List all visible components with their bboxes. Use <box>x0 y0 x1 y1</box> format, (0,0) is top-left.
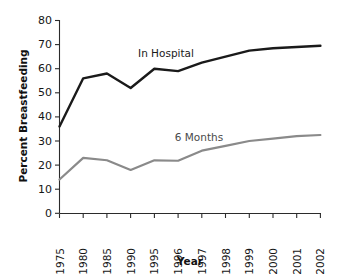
x-axis-ticks <box>60 214 321 219</box>
x-tick-label-4: 1995 <box>148 248 160 275</box>
series-annotation-in-hospital: In Hospital <box>138 47 194 59</box>
x-tick-label-3: 1990 <box>125 248 137 275</box>
x-tick-label-0: 1975 <box>54 248 66 275</box>
x-tick-label-2: 1985 <box>101 248 113 275</box>
y-tick-label-0: 0 <box>45 207 52 220</box>
y-tick-label-60: 60 <box>38 62 52 75</box>
x-tick-label-7: 1998 <box>220 248 232 275</box>
x-tick-label-11: 2002 <box>314 248 326 275</box>
y-tick-label-40: 40 <box>38 110 52 123</box>
breastfeeding-line-chart: 80 70 60 50 40 30 20 10 0 Percent Breast… <box>0 0 348 278</box>
chart-canvas: 80 70 60 50 40 30 20 10 0 Percent Breast… <box>0 0 348 278</box>
x-tick-label-10: 2001 <box>291 248 303 275</box>
y-tick-label-70: 70 <box>38 38 52 51</box>
y-tick-label-80: 80 <box>38 14 52 27</box>
y-tick-label-10: 10 <box>38 183 52 196</box>
x-tick-label-8: 1999 <box>243 248 255 275</box>
x-tick-label-1: 1980 <box>77 248 89 275</box>
y-axis-tick-labels: 80 70 60 50 40 30 20 10 0 <box>38 14 52 220</box>
series-annotation-6-months: 6 Months <box>175 131 223 143</box>
x-axis-title: Year <box>176 255 204 267</box>
y-axis-ticks <box>55 21 60 214</box>
y-tick-label-20: 20 <box>38 159 52 172</box>
y-tick-label-30: 30 <box>38 135 52 148</box>
y-axis-title: Percent Breastfeeding <box>17 49 29 182</box>
y-tick-label-50: 50 <box>38 86 52 99</box>
x-tick-label-9: 2000 <box>267 248 279 275</box>
